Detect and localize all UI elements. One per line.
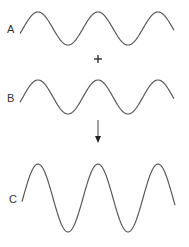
wave-a [20, 12, 174, 45]
label-b: B [7, 92, 14, 104]
wave-superposition-diagram: A B C [0, 0, 189, 247]
wave-b [20, 80, 174, 114]
down-arrow-icon [95, 120, 101, 143]
wave-c [22, 164, 175, 232]
label-c: C [9, 193, 17, 205]
diagram-canvas: A B C [0, 0, 189, 247]
label-a: A [7, 23, 15, 35]
plus-icon [94, 55, 102, 63]
